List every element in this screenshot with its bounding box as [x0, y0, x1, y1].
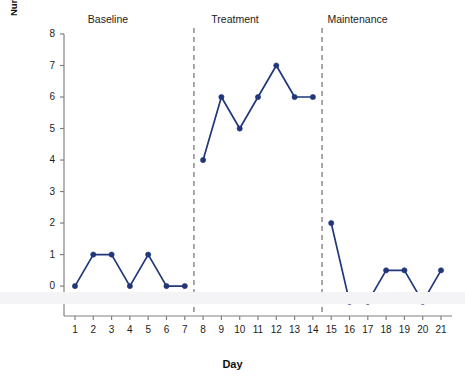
x-axis-tick-label: 17 [359, 325, 377, 335]
data-point-marker [255, 94, 260, 99]
x-axis-tick-label: 20 [414, 325, 432, 335]
data-point-marker [237, 126, 242, 131]
data-point-marker [329, 220, 334, 225]
series-line-maintenance [331, 223, 441, 302]
y-axis-tick-label: 6 [37, 92, 55, 102]
x-axis-tick-label: 16 [341, 325, 359, 335]
data-point-marker [274, 63, 279, 68]
single-subject-line-chart: Baseline Treatment Maintenance Number of… [0, 0, 465, 383]
data-point-marker [72, 283, 77, 288]
series-line-baseline [75, 255, 185, 287]
y-axis-tick-label: 4 [37, 155, 55, 165]
x-axis-tick-label: 14 [304, 325, 322, 335]
data-point-marker [182, 283, 187, 288]
x-axis-tick-label: 19 [395, 325, 413, 335]
data-point-marker [91, 252, 96, 257]
x-axis-tick-label: 5 [139, 325, 157, 335]
y-axis-tick-label: 8 [37, 29, 55, 39]
y-axis-tick-label: 3 [37, 187, 55, 197]
x-axis-tick-label: 15 [322, 325, 340, 335]
x-axis-title: Day [0, 358, 465, 370]
y-axis-tick-label: 0 [37, 281, 55, 291]
data-point-marker [347, 299, 352, 304]
y-axis-tick-label: 5 [37, 124, 55, 134]
data-point-marker [438, 268, 443, 273]
axes-layer [60, 34, 452, 320]
data-point-marker [292, 94, 297, 99]
x-axis-tick-label: 2 [84, 325, 102, 335]
x-axis-tick-label: 12 [267, 325, 285, 335]
data-point-marker [420, 299, 425, 304]
x-axis-tick-label: 10 [231, 325, 249, 335]
x-axis-tick-label: 3 [103, 325, 121, 335]
data-point-marker [365, 299, 370, 304]
y-axis-title-line-1: Number of instances of self-control [8, 0, 21, 62]
y-axis-title: Number of instances of self-control exhi… [8, 0, 34, 62]
phase-label-baseline: Baseline [68, 13, 148, 25]
data-point-marker [127, 283, 132, 288]
x-axis-tick-label: 1 [66, 325, 84, 335]
phase-label-maintenance: Maintenance [310, 13, 405, 25]
data-point-marker [200, 157, 205, 162]
data-point-marker [402, 268, 407, 273]
data-point-marker [219, 94, 224, 99]
phase-label-treatment: Treatment [195, 13, 275, 25]
x-axis-tick-label: 13 [286, 325, 304, 335]
x-axis-tick-label: 11 [249, 325, 267, 335]
data-point-marker [164, 283, 169, 288]
data-point-marker [146, 252, 151, 257]
phase-dividers-layer [194, 28, 322, 316]
x-axis-tick-label: 8 [194, 325, 212, 335]
x-axis-tick-label: 9 [212, 325, 230, 335]
data-point-marker [384, 268, 389, 273]
data-point-marker [109, 252, 114, 257]
y-axis-tick-label: 7 [37, 61, 55, 71]
y-axis-tick-label: 2 [37, 218, 55, 228]
x-axis-tick-label: 18 [377, 325, 395, 335]
data-point-marker [310, 94, 315, 99]
x-axis-tick-label: 7 [176, 325, 194, 335]
series-line-treatment [203, 66, 313, 161]
y-axis-title-line-2: exhibited on playground [21, 0, 34, 62]
y-axis-tick-label: 1 [37, 250, 55, 260]
x-axis-tick-label: 6 [157, 325, 175, 335]
x-axis-tick-label: 4 [121, 325, 139, 335]
x-axis-tick-label: 21 [432, 325, 450, 335]
data-series-layer [72, 63, 443, 305]
